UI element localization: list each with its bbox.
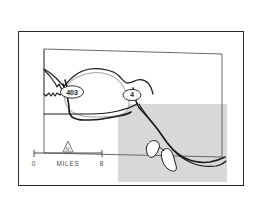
scale-bar-right-label: 8 xyxy=(100,160,104,167)
scale-bar: 0 MILES 8 xyxy=(32,150,104,167)
north-arrow: N xyxy=(63,141,73,152)
route-shield-403[interactable]: 403 xyxy=(61,86,84,98)
scale-bar-left-label: 0 xyxy=(32,160,36,167)
scale-bar-unit-label: MILES xyxy=(56,160,79,167)
map-canvas: 403 4 N 0 MILES 8 xyxy=(0,0,263,207)
route-shield-403-label: 403 xyxy=(66,89,78,96)
north-arrow-label: N xyxy=(66,146,70,152)
map-figure: 403 4 N 0 MILES 8 xyxy=(0,0,263,207)
route-shield-4-label: 4 xyxy=(130,91,134,98)
route-shield-4[interactable]: 4 xyxy=(123,89,141,100)
